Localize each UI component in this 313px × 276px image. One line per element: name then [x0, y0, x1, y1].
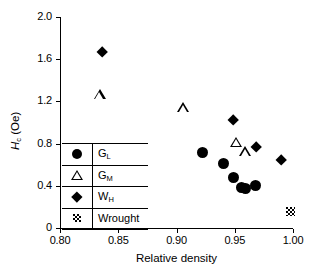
legend-rule [62, 229, 148, 230]
y-tick-label: 0.8 [18, 138, 52, 149]
y-tick-label: 0 [18, 222, 52, 233]
y-axis-title: Hc (Oe) [9, 112, 23, 150]
y-tick-label: 1.2 [18, 95, 52, 106]
legend-divider [92, 143, 93, 229]
x-tick-label: 0.80 [37, 235, 83, 246]
point-marker-triangle [177, 102, 189, 112]
point-marker-triangle [230, 137, 242, 147]
legend-label-wrought: Wrought [98, 213, 139, 224]
x-tick-label: 1.00 [270, 235, 313, 246]
legend-label-gm: GM [98, 170, 113, 184]
x-axis-title: Relative density [20, 252, 313, 264]
point-marker-diamond [96, 46, 108, 58]
x-tick-label: 0.85 [95, 235, 141, 246]
x-tick [293, 229, 294, 233]
y-tick [56, 144, 60, 145]
scatter-chart: 00.40.81.21.62.00.800.850.900.951.00 Hc … [0, 0, 313, 276]
legend-rule [62, 208, 148, 209]
point-marker-triangle [94, 89, 106, 99]
y-tick-label: 0.4 [18, 180, 52, 191]
x-tick [177, 229, 178, 233]
point-marker-diamond [250, 141, 262, 153]
legend-rule [62, 186, 148, 187]
y-tick [56, 59, 60, 60]
x-tick-label: 0.90 [154, 235, 200, 246]
point-marker-circle [197, 147, 208, 158]
y-tick-label: 2.0 [18, 11, 52, 22]
y-tick-label: 1.6 [18, 53, 52, 64]
x-tick [235, 229, 236, 233]
legend-rule [62, 143, 148, 144]
x-tick-label: 0.95 [212, 235, 258, 246]
point-marker-circle [218, 158, 229, 169]
legend-label-wh: WH [98, 191, 114, 205]
point-marker-diamond [228, 114, 240, 126]
y-tick [56, 186, 60, 187]
y-tick [56, 101, 60, 102]
legend-marker-gl [72, 149, 82, 159]
legend-marker-wrought [73, 214, 81, 222]
point-marker-circle [250, 180, 261, 191]
legend-marker-wh [72, 191, 83, 202]
y-tick [56, 17, 60, 18]
point-marker-circle [228, 172, 239, 183]
point-marker-diamond [275, 155, 287, 167]
legend-marker-gm [71, 170, 83, 180]
y-axis-line [60, 17, 61, 229]
point-marker-circle [240, 183, 251, 194]
point-marker-wrought [286, 207, 295, 216]
legend-label-gl: GL [98, 148, 111, 162]
point-marker-triangle [239, 146, 251, 156]
legend-rule [62, 165, 148, 166]
